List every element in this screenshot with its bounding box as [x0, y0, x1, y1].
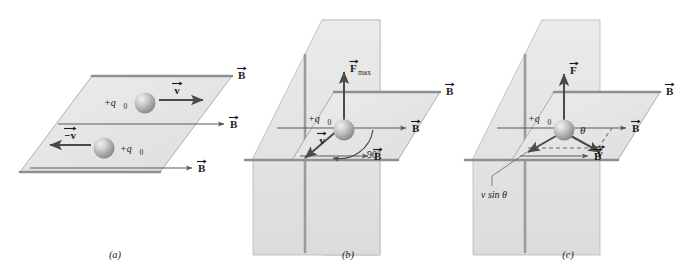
panel-b-caption: (b)	[342, 249, 355, 261]
panel-a-field-text-2: B	[230, 118, 238, 130]
panel-a-field-label-1: B	[237, 67, 247, 81]
panel-b-force-subscript: max	[358, 68, 371, 77]
panel-c: +q 0 F θ v v sin θ B B	[465, 20, 675, 261]
panel-a-velocity-text-lower: −v	[64, 129, 76, 141]
panel-b-field-text-1: B	[446, 85, 454, 97]
panel-a-field-text-1: B	[238, 69, 246, 81]
panel-a-charge-subscript-upper: 0	[124, 102, 128, 111]
panel-b-force-text: F	[350, 62, 357, 74]
panel-a-field-text-3: B	[198, 162, 206, 174]
panel-c-component-label: v sin θ	[481, 189, 507, 200]
panel-c-force-text: F	[570, 64, 577, 76]
panel-c-field-label-1: B	[665, 83, 675, 97]
panel-c-charge-sphere	[554, 120, 575, 141]
panel-c-field-text-2: B	[632, 122, 640, 134]
panel-b-field-text-3: B	[374, 150, 382, 162]
panel-b-field-label-2: B	[411, 120, 421, 134]
panel-b-charge-subscript: 0	[328, 118, 332, 127]
panel-a-field-label-3: B	[197, 160, 207, 174]
panel-b-field-label-3: B	[373, 148, 383, 162]
panel-c-angle-label: θ	[580, 124, 586, 136]
panel-c-field-label-2: B	[631, 120, 641, 134]
panel-b-velocity-text: v	[319, 134, 325, 146]
panel-a-charge-sphere-lower	[94, 138, 115, 159]
panel-b-charge-sphere	[334, 120, 355, 141]
panel-a-charge-subscript-lower: 0	[140, 148, 144, 157]
panel-c-field-text-1: B	[666, 85, 674, 97]
panel-b-field-text-2: B	[412, 122, 420, 134]
panel-b: +q 0 F max v 90° B B B	[245, 20, 455, 261]
panel-b-field-label-1: B	[445, 83, 455, 97]
panel-a: +q 0 +q 0 v −v B B	[20, 67, 247, 261]
panel-a-caption: (a)	[109, 249, 122, 261]
panel-a-velocity-label-lower: −v	[64, 127, 76, 141]
panel-a-field-label-2: B	[229, 116, 239, 130]
physics-figure-magnetic-force: +q 0 +q 0 v −v B B	[0, 0, 693, 277]
panel-c-field-text-3: B	[594, 150, 602, 162]
panel-c-caption: (c)	[562, 249, 574, 261]
figure-canvas: +q 0 +q 0 v −v B B	[0, 0, 693, 277]
panel-a-velocity-text-upper: v	[174, 84, 180, 96]
panel-a-charge-text-upper: +q	[104, 97, 116, 108]
panel-a-charge-sphere-upper	[135, 93, 156, 114]
panel-c-field-label-3: B	[593, 148, 603, 162]
panel-a-charge-text-lower: +q	[120, 143, 132, 154]
panel-c-charge-text: +q	[528, 113, 540, 124]
panel-c-charge-subscript: 0	[548, 118, 552, 127]
panel-b-charge-text: +q	[308, 113, 320, 124]
